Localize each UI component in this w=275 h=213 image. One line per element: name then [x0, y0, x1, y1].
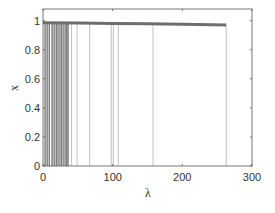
x-tick-0: 0 [40, 171, 46, 183]
x-tick-200: 200 [173, 171, 191, 183]
y-tick-0: 0 [34, 160, 40, 172]
chart: 0 100 200 300 0 0.2 0.4 0.6 0.8 1 λ x [0, 0, 275, 213]
y-tick-0.2: 0.2 [25, 131, 40, 143]
y-tick-0.4: 0.4 [25, 102, 40, 114]
y-axis-label: x [7, 85, 21, 91]
plot-box [43, 9, 252, 166]
main-series-line [43, 23, 226, 25]
tick-marks [43, 9, 252, 166]
vertical-lines [45, 23, 226, 166]
x-tick-100: 100 [104, 171, 122, 183]
y-tick-1: 1 [34, 15, 40, 27]
y-tick-0.6: 0.6 [25, 73, 40, 85]
x-tick-300: 300 [243, 171, 261, 183]
x-axis-label: λ [145, 186, 151, 200]
y-tick-0.8: 0.8 [25, 44, 40, 56]
